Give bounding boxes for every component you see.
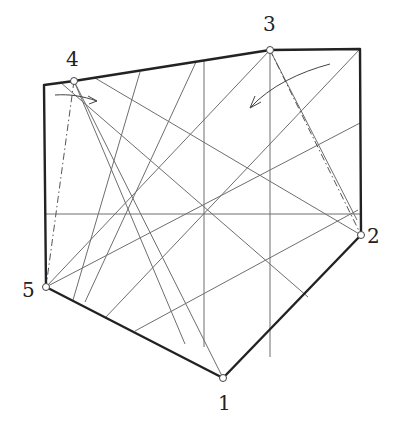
vertex-label-4: 4 xyxy=(66,47,79,71)
crease-pattern-diagram: 1 2 3 4 5 xyxy=(0,0,398,427)
crease-line xyxy=(85,62,196,302)
crease-line xyxy=(73,72,140,300)
crease-line xyxy=(95,78,361,235)
vertex-4-marker xyxy=(71,78,78,85)
vertex-5-marker xyxy=(43,284,50,291)
dash-dot-line xyxy=(270,50,361,235)
dash-dot-line xyxy=(46,81,74,287)
vertex-label-5: 5 xyxy=(22,278,35,302)
vertex-2-marker xyxy=(358,232,365,239)
vertex-3-marker xyxy=(267,47,274,54)
vertex-label-1: 1 xyxy=(218,391,231,415)
arrow-near-3-icon xyxy=(250,64,330,108)
vertex-1-marker xyxy=(220,375,227,382)
vertex-label-2: 2 xyxy=(367,224,380,248)
crease-line xyxy=(46,50,270,287)
crease-line xyxy=(74,81,185,344)
crease-line xyxy=(135,210,358,331)
crease-line xyxy=(60,82,308,297)
vertex-label-3: 3 xyxy=(263,12,276,36)
crease-line xyxy=(46,123,360,287)
crease-line xyxy=(74,81,223,378)
crease-line xyxy=(270,50,357,220)
